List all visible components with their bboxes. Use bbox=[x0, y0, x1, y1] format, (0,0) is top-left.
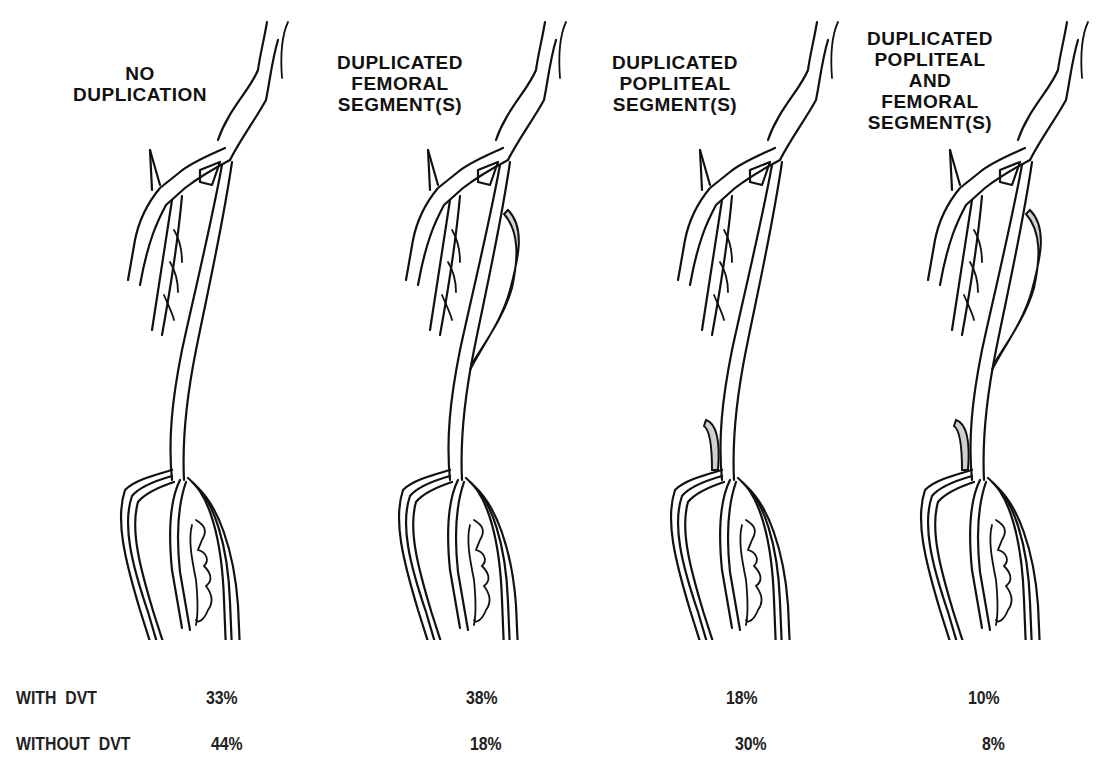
duplicated-femoral-segment bbox=[992, 210, 1041, 370]
value-no-duplication: 44% bbox=[211, 734, 243, 755]
duplicated-popliteal-segment bbox=[704, 420, 719, 470]
duplicated-popliteal-segment bbox=[954, 420, 969, 470]
leg-diagram-no-duplication bbox=[121, 22, 288, 640]
value-duplicated-femoral: 38% bbox=[466, 688, 498, 709]
vein-illustrations bbox=[0, 0, 1105, 640]
row-label: WITH DVT bbox=[16, 688, 97, 709]
leg-diagram-duplicated-popliteal bbox=[671, 22, 838, 640]
value-duplicated-popliteal: 30% bbox=[735, 734, 767, 755]
leg-diagram-duplicated-popliteal-and-femoral bbox=[921, 22, 1088, 640]
value-duplicated-popliteal-and-femoral: 10% bbox=[968, 688, 1000, 709]
leg-diagram-duplicated-femoral bbox=[399, 22, 566, 640]
row-label: WITHOUT DVT bbox=[16, 734, 130, 755]
value-duplicated-popliteal-and-femoral: 8% bbox=[982, 734, 1005, 755]
duplicated-femoral-segment bbox=[470, 210, 519, 370]
value-duplicated-femoral: 18% bbox=[470, 734, 502, 755]
value-duplicated-popliteal: 18% bbox=[726, 688, 758, 709]
value-no-duplication: 33% bbox=[206, 688, 238, 709]
